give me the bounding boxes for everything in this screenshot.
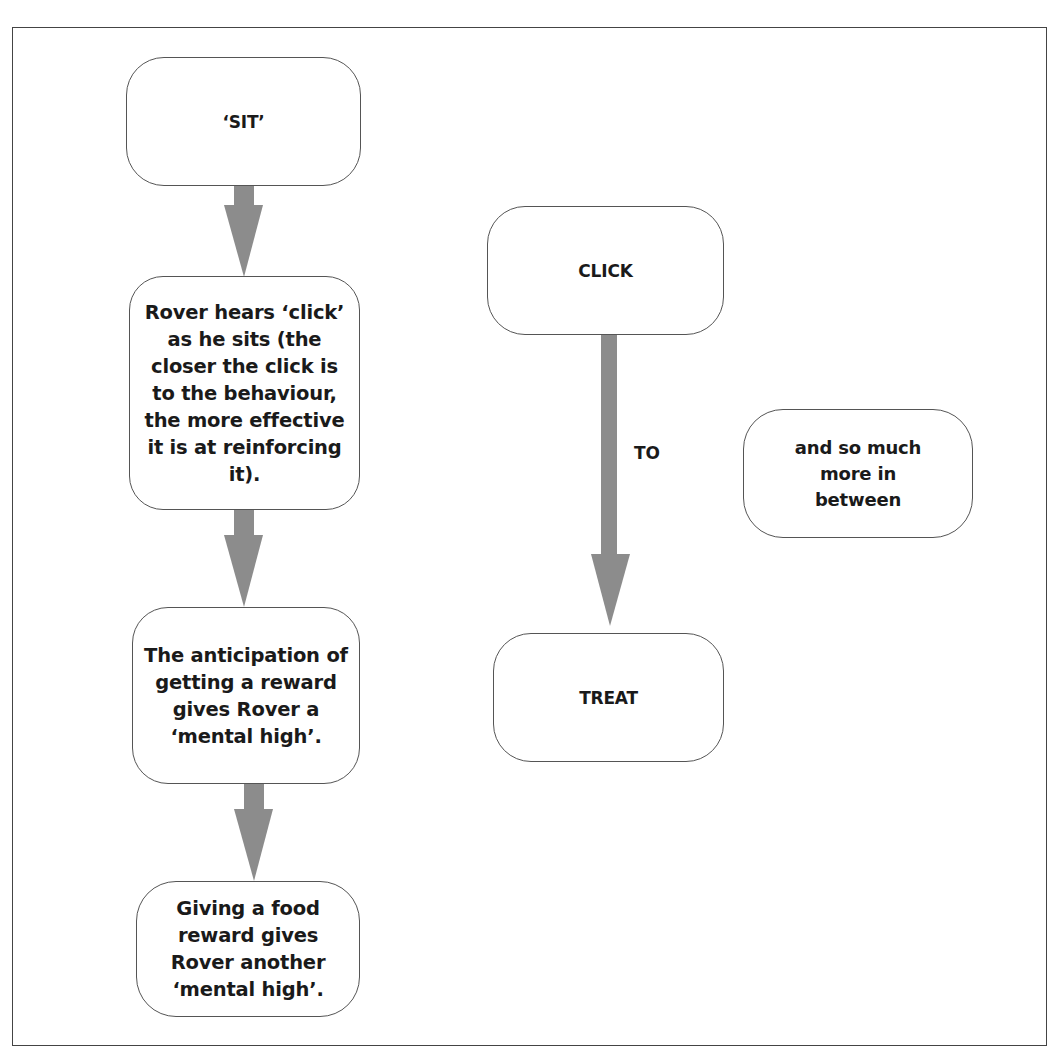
node-in-between: and so much more in between	[743, 409, 973, 538]
node-sit-label: ‘SIT’	[222, 112, 264, 132]
node-hears-click: Rover hears ‘click’ as he sits (the clos…	[129, 276, 360, 510]
node-hears-click-label: Rover hears ‘click’ as he sits (the clos…	[140, 299, 349, 488]
arrow-label-to: TO	[634, 443, 660, 463]
node-treat-label: TREAT	[579, 688, 638, 708]
node-anticipation-label: The anticipation of getting a reward giv…	[143, 642, 349, 750]
node-food-reward-label: Giving a food reward gives Rover another…	[147, 895, 349, 1003]
node-anticipation: The anticipation of getting a reward giv…	[132, 607, 360, 784]
node-click-label: CLICK	[578, 261, 632, 281]
node-food-reward: Giving a food reward gives Rover another…	[136, 881, 360, 1017]
node-click: CLICK	[487, 206, 724, 335]
node-sit: ‘SIT’	[126, 57, 361, 186]
node-in-between-label: and so much more in between	[774, 435, 942, 513]
node-treat: TREAT	[493, 633, 724, 762]
